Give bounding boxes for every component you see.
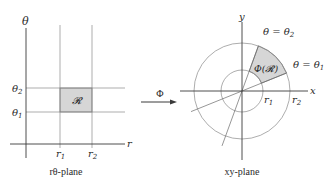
- r1-sub: 1: [61, 153, 65, 161]
- svg-text:θ = θ2: θ = θ2: [263, 26, 295, 39]
- r2-sub: 2: [92, 153, 98, 161]
- arrow-head-icon: [170, 100, 177, 105]
- xy-plane-caption: xy-plane: [225, 166, 261, 177]
- y-axis-label: y: [238, 11, 245, 22]
- xy-r1-sub: 1: [269, 99, 273, 107]
- ray-theta2-sub: 2: [289, 31, 295, 39]
- rtheta-plane-caption: rθ-plane: [49, 166, 83, 177]
- phi-label: Φ: [156, 88, 163, 99]
- xy-plane: y x θ = θ2 θ = θ1 r1 r2 Φ(𝓡) xy-plane: [180, 11, 324, 177]
- svg-text:r2: r2: [292, 94, 302, 107]
- svg-text:r1: r1: [56, 148, 65, 161]
- ray-theta2: [222, 46, 258, 146]
- x-axis-label: x: [310, 85, 316, 96]
- svg-text:θ1: θ1: [12, 107, 23, 120]
- svg-text:θ2: θ2: [12, 83, 23, 96]
- svg-text:θ = θ1: θ = θ1: [293, 59, 324, 72]
- theta-axis-label: θ: [22, 15, 29, 28]
- mapping-arrow: Φ: [141, 88, 177, 105]
- region-phi-r-label: Φ(𝓡): [254, 63, 278, 74]
- r-axis-label: r: [127, 138, 133, 149]
- ray-theta2-label: θ = θ: [263, 26, 290, 37]
- ray-theta1-label: θ = θ: [293, 59, 320, 70]
- xy-r2-sub: 2: [296, 99, 302, 107]
- theta2-sub: 2: [17, 88, 23, 96]
- polar-mapping-diagram: θ r θ2 θ1 r1 r2 𝓡 rθ-plane Φ y x θ = θ2 …: [0, 0, 326, 181]
- svg-text:r2: r2: [88, 148, 98, 161]
- ray-theta1-sub: 1: [320, 64, 324, 72]
- theta1-sub: 1: [18, 112, 22, 120]
- rtheta-plane: θ r θ2 θ1 r1 r2 𝓡 rθ-plane: [10, 15, 133, 177]
- svg-text:r1: r1: [264, 94, 273, 107]
